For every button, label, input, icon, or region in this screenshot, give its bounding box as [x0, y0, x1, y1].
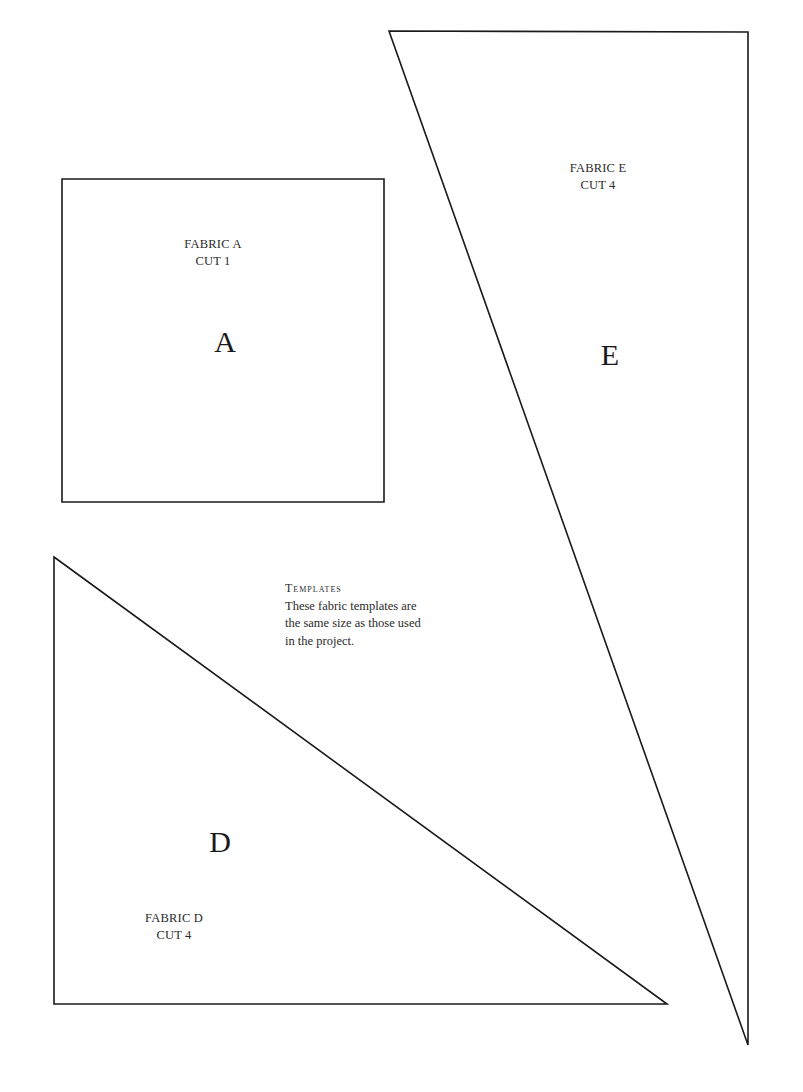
- fabric-a-cut: CUT 1: [173, 253, 253, 270]
- fabric-a-name: FABRIC A: [173, 236, 253, 253]
- fabric-a-letter: A: [205, 327, 245, 357]
- fabric-e-label-block: FABRIC E CUT 4: [558, 160, 638, 194]
- template-shapes: [0, 0, 803, 1092]
- fabric-e-cut: CUT 4: [558, 177, 638, 194]
- templates-note-heading: Templates: [285, 580, 485, 598]
- fabric-d-name: FABRIC D: [134, 910, 214, 927]
- fabric-d-label-block: FABRIC D CUT 4: [134, 910, 214, 944]
- templates-note-line-1: These fabric templates are: [285, 598, 485, 616]
- templates-note-line-3: in the project.: [285, 633, 485, 651]
- templates-note-line-2: the same size as those used: [285, 615, 485, 633]
- fabric-a-label-block: FABRIC A CUT 1: [173, 236, 253, 270]
- templates-note: Templates These fabric templates are the…: [285, 580, 485, 650]
- fabric-d-cut: CUT 4: [134, 927, 214, 944]
- fabric-e-letter: E: [590, 340, 630, 370]
- fabric-d-letter: D: [200, 827, 240, 857]
- fabric-e-name: FABRIC E: [558, 160, 638, 177]
